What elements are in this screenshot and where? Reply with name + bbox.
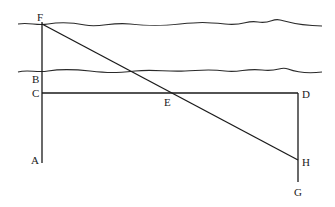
top-bank-wave [18,20,322,26]
label-C: C [32,87,39,99]
bottom-bank-wave [18,68,322,73]
label-G: G [294,186,302,198]
label-D: D [302,88,310,100]
label-H: H [302,156,310,168]
river-diagram: F B C A E D H G [0,0,335,207]
label-E: E [164,96,171,108]
label-A: A [31,154,39,166]
label-B: B [32,73,39,85]
segment-FH [42,24,298,160]
label-F: F [37,11,43,23]
